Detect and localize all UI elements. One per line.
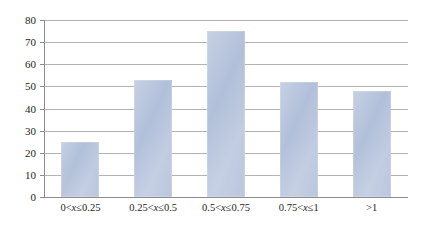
y-axis-label: 70 (6, 37, 36, 48)
x-axis-label: >1 (366, 202, 377, 215)
plot-area (44, 20, 408, 197)
bar[interactable] (61, 142, 99, 197)
x-axis-labels: 0<x≤0.250.25<x≤0.50.5<x≤0.750.75<x≤1>1 (44, 202, 408, 226)
x-axis-label: 0.5<x≤0.75 (202, 202, 250, 215)
bar-chart: 01020304050607080 0<x≤0.250.25<x≤0.50.5<… (0, 0, 422, 230)
y-axis-label: 40 (6, 103, 36, 114)
y-axis-label: 20 (6, 147, 36, 158)
gridline (44, 197, 408, 198)
y-axis-label: 80 (6, 15, 36, 26)
x-axis-label: 0.75<x≤1 (279, 202, 319, 215)
x-axis-label: 0<x≤0.25 (60, 202, 100, 215)
y-axis-label: 0 (6, 192, 36, 203)
bars (44, 20, 408, 197)
y-axis-label: 60 (6, 59, 36, 70)
y-axis-label: 50 (6, 81, 36, 92)
x-axis-label: 0.25<x≤0.5 (129, 202, 177, 215)
bar[interactable] (353, 91, 391, 197)
bar[interactable] (280, 82, 318, 197)
bar[interactable] (207, 31, 245, 197)
y-axis-label: 10 (6, 169, 36, 180)
y-axis-label: 30 (6, 125, 36, 136)
bar[interactable] (134, 80, 172, 197)
